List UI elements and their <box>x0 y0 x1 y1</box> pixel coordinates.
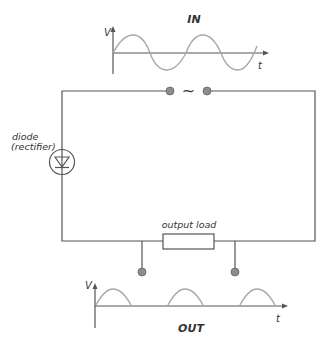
output-x-arrow-icon <box>282 304 288 309</box>
output-y-arrow-icon <box>93 283 98 289</box>
circuit: ~ diode (rectifier) output load <box>11 81 315 276</box>
wire-top-left <box>62 91 170 150</box>
input-graph-title: IN <box>187 13 200 26</box>
input-y-axis-label: V <box>104 27 112 38</box>
output-graph-title: OUT <box>178 322 205 335</box>
ac-terminal-left <box>166 87 174 95</box>
diode-label-sub: (rectifier) <box>11 141 56 152</box>
output-halfwave <box>96 289 275 305</box>
output-terminal-left <box>138 268 146 276</box>
input-x-arrow-icon <box>263 51 269 56</box>
rectifier-diagram: IN V t ~ diode (rectifier) output load <box>0 0 324 353</box>
input-graph: IN V t <box>104 13 269 74</box>
wire-bottom-left <box>62 174 163 241</box>
output-graph: V t OUT <box>85 280 288 335</box>
output-x-axis-label: t <box>276 313 281 324</box>
input-x-axis-label: t <box>258 60 263 71</box>
ac-source-icon: ~ <box>182 81 195 100</box>
ac-terminal-right <box>203 87 211 95</box>
output-load-label: output load <box>162 219 218 230</box>
diode-icon <box>50 150 75 175</box>
input-y-arrow-icon <box>111 26 116 32</box>
output-y-axis-label: V <box>85 280 93 291</box>
wire-top-right <box>206 91 315 241</box>
output-load-resistor <box>163 234 214 249</box>
output-terminal-right <box>231 268 239 276</box>
